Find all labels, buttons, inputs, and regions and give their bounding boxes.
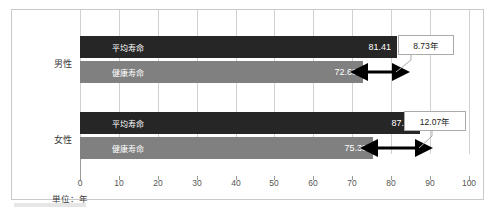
bar-value-male-average-life: 81.41 (368, 42, 391, 52)
gridline-100 (469, 10, 470, 154)
bar-label-male-average-life: 平均寿命 (112, 42, 144, 53)
bar-male-average-life: 平均寿命 81.41 (80, 36, 397, 58)
tick-label-100: 100 (457, 178, 481, 188)
tick-label-40: 40 (224, 178, 248, 188)
tick-label-10: 10 (107, 178, 131, 188)
tick-label-60: 60 (301, 178, 325, 188)
tick-label-70: 70 (340, 178, 364, 188)
tick-label-90: 90 (418, 178, 442, 188)
tick-label-20: 20 (146, 178, 170, 188)
tick-label-50: 50 (262, 178, 286, 188)
chart-frame: 男性 平均寿命 81.41 健康寿命 72.68 8.73年 (11, 9, 484, 200)
bottom-strip (14, 203, 86, 207)
tick-label-0: 0 (68, 178, 92, 188)
bar-label-female-healthy-life: 健康寿命 (112, 143, 144, 154)
category-label-female: 女性 (32, 133, 72, 146)
tick-label-80: 80 (379, 178, 403, 188)
gap-callout-male: 8.73年 (398, 35, 454, 55)
bar-female-healthy-life: 健康寿命 75.38 (80, 137, 373, 159)
gridline-90 (430, 10, 431, 154)
bar-male-healthy-life: 健康寿命 72.68 (80, 61, 363, 83)
chart-root: 男性 平均寿命 81.41 健康寿命 72.68 8.73年 (0, 0, 496, 209)
bar-value-female-healthy-life: 75.38 (344, 143, 367, 153)
bar-label-female-average-life: 平均寿命 (112, 118, 144, 129)
bar-female-average-life: 平均寿命 87.45 (80, 112, 420, 134)
gap-callout-female: 12.07年 (404, 111, 466, 131)
bar-value-male-healthy-life: 72.68 (334, 67, 357, 77)
bar-label-male-healthy-life: 健康寿命 (112, 67, 144, 78)
category-label-male: 男性 (32, 57, 72, 70)
tick-label-30: 30 (185, 178, 209, 188)
